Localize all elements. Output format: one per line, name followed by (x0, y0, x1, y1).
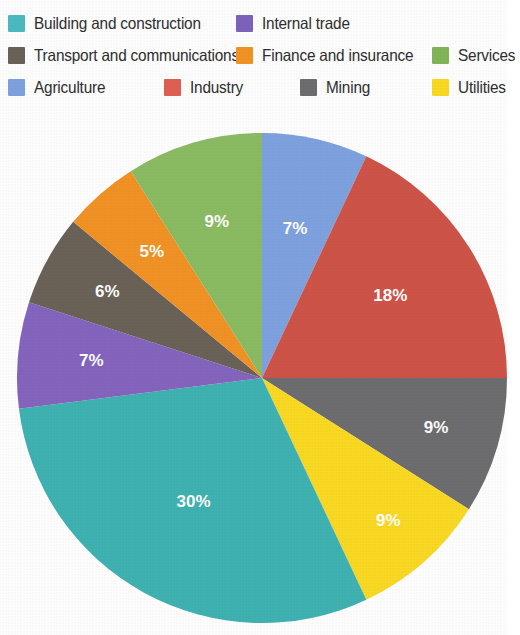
legend-swatch-transport-and-communications (8, 47, 25, 64)
legend-label-building-and-construction: Building and construction (34, 14, 201, 32)
legend-label-transport-and-communications: Transport and communications (34, 46, 239, 64)
legend-label-internal-trade: Internal trade (262, 14, 350, 32)
legend-row: Agriculture Industry Mining Utilities (0, 71, 507, 103)
legend-swatch-services (432, 47, 449, 64)
legend-swatch-industry (164, 79, 181, 96)
pie-slice-label-mining: 9% (424, 418, 449, 437)
legend-swatch-agriculture (8, 79, 25, 96)
pie-slice-label-building-and-construction: 30% (176, 492, 210, 511)
pie-chart-area: 7%18%9%9%30%7%6%5%9% (0, 108, 507, 635)
legend-label-agriculture: Agriculture (34, 78, 105, 96)
chart-legend: Building and construction Internal trade… (0, 0, 507, 108)
legend-label-finance-and-insurance: Finance and insurance (262, 46, 413, 64)
legend-entry-services: Services (432, 39, 520, 71)
legend-label-services: Services (458, 46, 515, 64)
legend-swatch-internal-trade (236, 15, 253, 32)
pie-slice-label-agriculture: 7% (283, 219, 308, 238)
pie-chart: 7%18%9%9%30%7%6%5%9% (0, 108, 507, 635)
legend-entry-mining: Mining (300, 71, 373, 103)
pie-slice-label-finance-and-insurance: 5% (140, 242, 165, 261)
legend-row: Building and construction Internal trade (0, 7, 507, 39)
legend-swatch-finance-and-insurance (236, 47, 253, 64)
legend-swatch-mining (300, 79, 317, 96)
pie-slice-label-services: 9% (205, 212, 230, 231)
legend-entry-finance-and-insurance: Finance and insurance (236, 39, 425, 71)
pie-slice-label-industry: 18% (373, 286, 407, 305)
pie-slice-label-utilities: 9% (376, 511, 401, 530)
legend-entry-industry: Industry (164, 71, 247, 103)
legend-entry-building-and-construction: Building and construction (8, 7, 213, 39)
legend-entry-agriculture: Agriculture (8, 71, 111, 103)
legend-label-mining: Mining (326, 78, 370, 96)
legend-label-utilities: Utilities (458, 78, 506, 96)
legend-swatch-building-and-construction (8, 15, 25, 32)
pie-slice-label-transport-and-communications: 6% (95, 282, 120, 301)
legend-entry-utilities: Utilities (432, 71, 509, 103)
legend-label-industry: Industry (190, 78, 243, 96)
pie-slice-label-internal-trade: 7% (79, 351, 104, 370)
pie-slices-group (17, 133, 507, 623)
legend-row: Transport and communications Finance and… (0, 39, 507, 71)
legend-swatch-utilities (432, 79, 449, 96)
legend-entry-internal-trade: Internal trade (236, 7, 356, 39)
legend-entry-transport-and-communications: Transport and communications (8, 39, 254, 71)
